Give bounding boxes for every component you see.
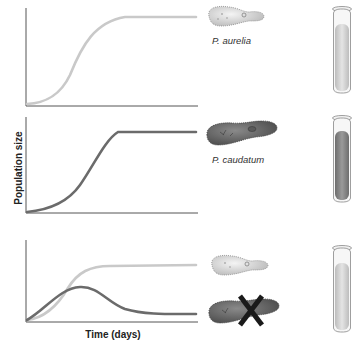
y-axis-label: Population size: [13, 131, 24, 205]
paramecium-aurelia-icon: [209, 6, 264, 26]
test-tube-icon: [333, 7, 352, 94]
panel-both-species: [26, 240, 198, 322]
curve-aurelia: [27, 17, 196, 104]
panel-aurelia-alone: [26, 8, 198, 106]
test-tube-icon: [333, 116, 352, 203]
competitive-exclusion-figure: P. aurelia P. caudatum Population size: [0, 0, 361, 363]
species-label-caudatum: P. caudatum: [212, 154, 264, 165]
x-axis-label: Time (days): [85, 329, 140, 340]
curve-caudatum: [27, 132, 196, 212]
curve-caudatum-mixed: [27, 287, 196, 320]
panel-caudatum-alone: [26, 117, 198, 213]
paramecium-aurelia-icon: [212, 255, 268, 275]
paramecium-caudatum-icon: [207, 121, 277, 145]
species-label-aurelia: P. aurelia: [212, 35, 251, 46]
curve-aurelia-mixed: [27, 265, 196, 320]
test-tube-icon: [333, 246, 352, 333]
